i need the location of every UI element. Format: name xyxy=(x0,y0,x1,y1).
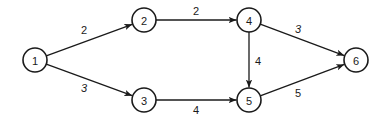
arrow-icon xyxy=(260,64,344,95)
nodes-layer: 123456 xyxy=(23,8,368,112)
arrow-icon xyxy=(260,24,344,55)
edge-weight-label: 4 xyxy=(255,55,261,67)
edge-weight-label: 2 xyxy=(193,5,199,17)
node-1: 1 xyxy=(23,48,47,72)
node-6: 6 xyxy=(344,48,368,72)
arrow-icon xyxy=(46,64,132,96)
edge-weight-label: 3 xyxy=(295,23,302,35)
node-4: 4 xyxy=(237,8,261,32)
node-3: 3 xyxy=(132,88,156,112)
edge-weight-label: 5 xyxy=(295,87,301,99)
edge-1-to-2 xyxy=(46,24,132,56)
edge-4-to-6 xyxy=(260,24,344,55)
edge-weight-label: 3 xyxy=(81,82,88,94)
node-label: 4 xyxy=(246,15,252,27)
edge-weight-label: 4 xyxy=(193,104,199,116)
node-label: 1 xyxy=(32,55,38,67)
node-5: 5 xyxy=(237,88,261,112)
node-label: 5 xyxy=(246,95,252,107)
edge-5-to-6 xyxy=(260,64,344,95)
edge-1-to-3 xyxy=(46,64,132,96)
node-2: 2 xyxy=(132,8,156,32)
node-label: 6 xyxy=(353,55,359,67)
edge-weight-label: 2 xyxy=(81,24,87,36)
arrow-icon xyxy=(46,24,132,56)
network-diagram: 2324435 123456 xyxy=(0,0,386,117)
node-label: 3 xyxy=(141,95,147,107)
node-label: 2 xyxy=(141,15,147,27)
